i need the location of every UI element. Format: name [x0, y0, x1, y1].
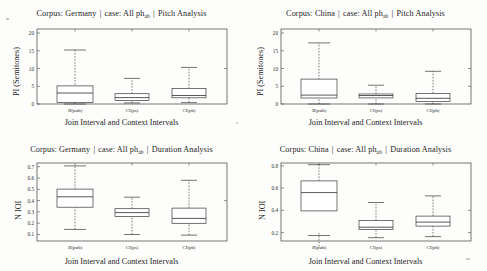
svg-text:15: 15	[273, 48, 279, 54]
svg-text:0.6: 0.6	[28, 175, 35, 181]
svg-text:15: 15	[29, 48, 35, 54]
top-axis-ticks	[75, 29, 227, 69]
x-axis-ticklabels: JI(pstb) CI(ps) CI(pb)	[68, 108, 196, 113]
box-group-2	[359, 203, 393, 238]
box-group-2	[115, 78, 149, 103]
y-axis-ticks: 0 5 10 15 20	[29, 30, 40, 107]
y-axis-ticks: 0 5 10 15 20	[273, 30, 284, 107]
svg-text:0.2: 0.2	[272, 230, 279, 236]
x-axis-label: Join Interval and Context Intervals	[244, 257, 487, 267]
svg-text:CI(pb): CI(pb)	[427, 108, 440, 113]
box-group-2	[115, 197, 149, 234]
svg-text:CI(ps): CI(ps)	[126, 108, 139, 113]
figure-canvas: Corpus: Germany | case: All phab | Pitch…	[0, 0, 487, 271]
boxplot-svg-bottom-left: 0.1 0.2 0.3 0.4 0.5 0.6 0.7	[0, 136, 243, 271]
box-group-1	[57, 50, 93, 104]
panel-bottom-left: Corpus: Germany | case: All phab | Durat…	[0, 136, 243, 271]
box-group-3	[416, 71, 450, 104]
top-axis-ticks	[75, 163, 227, 201]
svg-text:0.6: 0.6	[272, 185, 279, 191]
x-axis-ticklabels: JI(pstb) CI(ps) CI(pb)	[312, 108, 440, 113]
svg-text:20: 20	[273, 30, 279, 36]
svg-text:10: 10	[29, 66, 35, 72]
y-axis-label: PI (Semitones)	[12, 47, 21, 96]
svg-text:5: 5	[275, 83, 278, 89]
svg-text:CI(pb): CI(pb)	[427, 245, 440, 250]
panel-top-right: Corpus: China | case: All phab | Pitch A…	[244, 0, 487, 135]
svg-text:5: 5	[31, 83, 34, 89]
svg-text:JI(pstb): JI(pstb)	[312, 108, 327, 113]
svg-text:0.4: 0.4	[272, 207, 279, 213]
box-group-3	[172, 180, 206, 235]
boxplot-svg-top-left: 0 5 10 15 20	[0, 0, 243, 135]
box-group-3	[416, 196, 450, 237]
svg-text:0.2: 0.2	[28, 220, 35, 226]
box-group-1	[301, 165, 337, 247]
x-axis-ticklabels: JI(pstb) CI(ps) CI(pb)	[68, 245, 196, 250]
top-axis-ticks	[319, 29, 471, 86]
x-axis-ticklabels: JI(pstb) CI(ps) CI(pb)	[312, 245, 440, 250]
svg-text:0.3: 0.3	[28, 209, 35, 215]
box-group-3	[172, 67, 206, 102]
box-group-1	[301, 43, 337, 104]
svg-text:10: 10	[273, 66, 279, 72]
svg-text:CI(ps): CI(ps)	[126, 245, 139, 250]
panel-top-left: Corpus: Germany | case: All phab | Pitch…	[0, 0, 243, 135]
y-axis-label: N IOI	[14, 201, 23, 220]
boxplot-svg-top-right: 0 5 10 15 20	[244, 0, 487, 135]
svg-text:CI(pb): CI(pb)	[183, 108, 196, 113]
box-group-2	[359, 85, 393, 104]
svg-text:CI(ps): CI(ps)	[370, 245, 383, 250]
box-group-1	[57, 166, 93, 230]
svg-text:0: 0	[275, 101, 278, 107]
x-axis-label: Join Interval and Context Intervals	[0, 118, 243, 128]
panel-bottom-right: Corpus: China | case: All phab | Duratio…	[244, 136, 487, 271]
x-axis-label: Join Interval and Context Intervals	[244, 118, 487, 128]
svg-text:0.7: 0.7	[28, 164, 35, 170]
svg-text:0.4: 0.4	[28, 198, 35, 204]
svg-text:JI(pstb): JI(pstb)	[312, 245, 327, 250]
y-axis-label: N IOI	[258, 201, 267, 220]
y-axis-ticks: 0.1 0.2 0.3 0.4 0.5 0.6 0.7	[28, 164, 40, 238]
svg-text:0.1: 0.1	[28, 231, 35, 237]
svg-text:CI(pb): CI(pb)	[183, 245, 196, 250]
svg-text:0.8: 0.8	[272, 163, 279, 169]
y-axis-label: PI (Semitones)	[256, 47, 265, 96]
svg-text:CI(ps): CI(ps)	[370, 108, 383, 113]
svg-text:JI(pstb): JI(pstb)	[68, 245, 83, 250]
svg-text:20: 20	[29, 30, 35, 36]
svg-text:0.5: 0.5	[28, 186, 35, 192]
svg-text:0: 0	[31, 101, 34, 107]
y-axis-ticks: 0.2 0.4 0.6 0.8	[272, 163, 284, 236]
boxplot-svg-bottom-right: 0.2 0.4 0.6 0.8	[244, 136, 487, 271]
x-axis-label: Join Interval and Context Intervals	[0, 257, 243, 267]
svg-text:JI(pstb): JI(pstb)	[68, 108, 83, 113]
